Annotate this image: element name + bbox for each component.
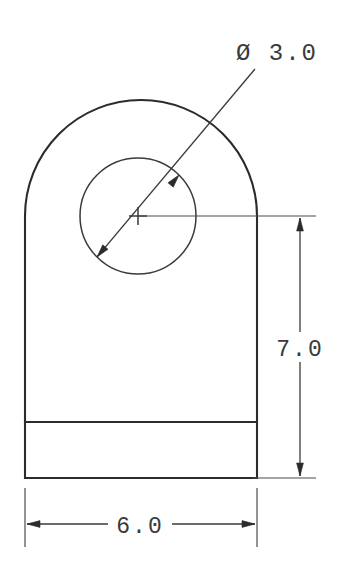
diameter-leader-line (97, 69, 255, 257)
height-dimension-text: 7.0 (276, 337, 323, 363)
width-dimension-text: 6.0 (116, 514, 163, 540)
drawing-canvas: Ø 3.0 7.0 (0, 0, 348, 577)
diameter-dimension-text: Ø 3.0 (236, 40, 318, 67)
diameter-leader (94, 69, 255, 259)
engineering-drawing-svg: Ø 3.0 7.0 (0, 0, 348, 577)
